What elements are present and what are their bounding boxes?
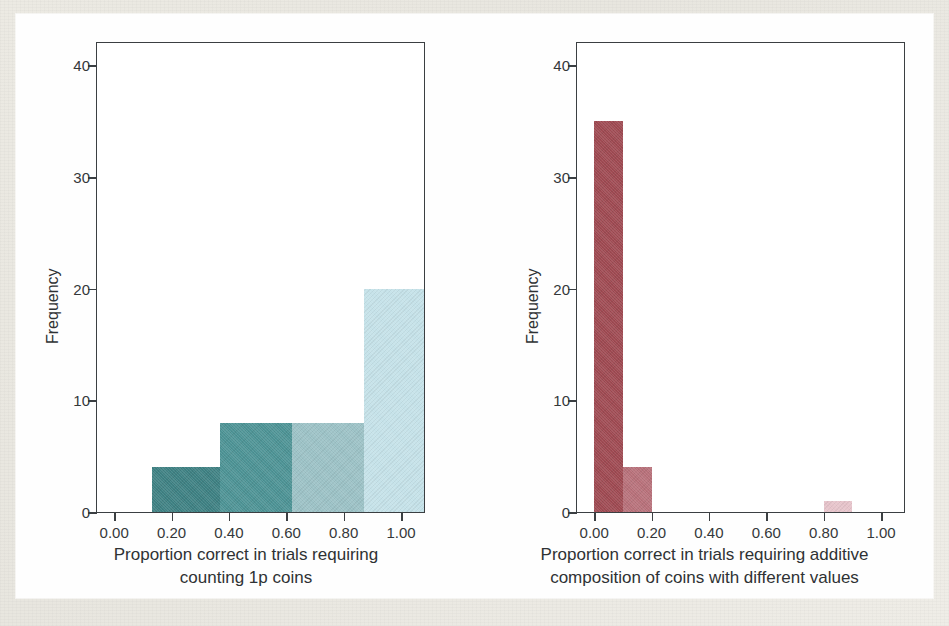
x-axis-tick-label: 0.20 xyxy=(637,524,666,541)
x-axis-title-right: Proportion correct in trials requiring a… xyxy=(476,543,933,589)
plot-area-right: 010203040 0.000.200.400.600.801.00 xyxy=(576,42,905,513)
y-axis-tick-label: 10 xyxy=(73,392,90,409)
histogram-bar xyxy=(824,501,853,512)
x-axis-tick-label: 0.80 xyxy=(329,524,358,541)
x-axis-tick-label: 0.00 xyxy=(100,524,129,541)
y-axis-tick-label: 20 xyxy=(73,280,90,297)
x-axis-tick xyxy=(881,512,883,521)
x-axis-tick-label: 0.80 xyxy=(809,524,838,541)
x-axis-tick-label: 0.40 xyxy=(694,524,723,541)
x-axis-tick xyxy=(229,512,231,521)
x-axis-tick-label: 0.00 xyxy=(580,524,609,541)
y-axis-tick-label: 0 xyxy=(562,504,570,521)
x-axis-tick-label: 1.00 xyxy=(866,524,895,541)
x-axis-tick xyxy=(401,512,403,521)
bar-series-left xyxy=(97,43,424,512)
x-axis-title-right-line1: Proportion correct in trials requiring a… xyxy=(476,543,933,566)
x-axis-tick-label: 0.60 xyxy=(752,524,781,541)
x-axis-tick-label: 0.60 xyxy=(272,524,301,541)
x-axis-tick xyxy=(114,512,116,521)
figure-root: Frequency 010203040 0.000.200.400.600.80… xyxy=(0,0,949,626)
x-axis-tick xyxy=(709,512,711,521)
x-axis-title-left: Proportion correct in trials requiring c… xyxy=(16,543,476,589)
figure-paper: Frequency 010203040 0.000.200.400.600.80… xyxy=(16,14,933,598)
x-axis-tick xyxy=(766,512,768,521)
x-axis-title-left-line2: counting 1p coins xyxy=(16,566,476,589)
bar-series-right xyxy=(577,43,904,512)
histogram-bar xyxy=(292,423,364,512)
chart-panel-left: Frequency 010203040 0.000.200.400.600.80… xyxy=(16,14,476,598)
x-axis-tick xyxy=(824,512,826,521)
x-axis-tick-label: 0.20 xyxy=(157,524,186,541)
y-axis-title-left: Frequency xyxy=(44,268,62,344)
histogram-bar xyxy=(623,467,652,512)
histogram-bar xyxy=(594,121,623,512)
x-axis-tick xyxy=(286,512,288,521)
x-axis-tick-label: 0.40 xyxy=(214,524,243,541)
y-axis-tick-label: 30 xyxy=(73,169,90,186)
y-axis-tick-label: 40 xyxy=(73,57,90,74)
histogram-bar xyxy=(364,289,424,512)
x-axis-title-left-line1: Proportion correct in trials requiring xyxy=(16,543,476,566)
y-axis-tick-label: 10 xyxy=(553,392,570,409)
x-axis-tick xyxy=(172,512,174,521)
y-axis-tick-label: 0 xyxy=(82,504,90,521)
x-axis-tick xyxy=(594,512,596,521)
chart-panel-right: Frequency 010203040 0.000.200.400.600.80… xyxy=(476,14,933,598)
histogram-bar xyxy=(220,423,292,512)
x-axis-tick xyxy=(344,512,346,521)
y-axis-title-right: Frequency xyxy=(524,268,542,344)
y-axis-tick-label: 30 xyxy=(553,169,570,186)
histogram-bar xyxy=(152,467,221,512)
y-axis-tick-label: 20 xyxy=(553,280,570,297)
x-axis-tick xyxy=(652,512,654,521)
y-axis-tick-label: 40 xyxy=(553,57,570,74)
x-axis-tick-label: 1.00 xyxy=(386,524,415,541)
x-axis-title-right-line2: composition of coins with different valu… xyxy=(476,566,933,589)
plot-area-left: 010203040 0.000.200.400.600.801.00 xyxy=(96,42,425,513)
